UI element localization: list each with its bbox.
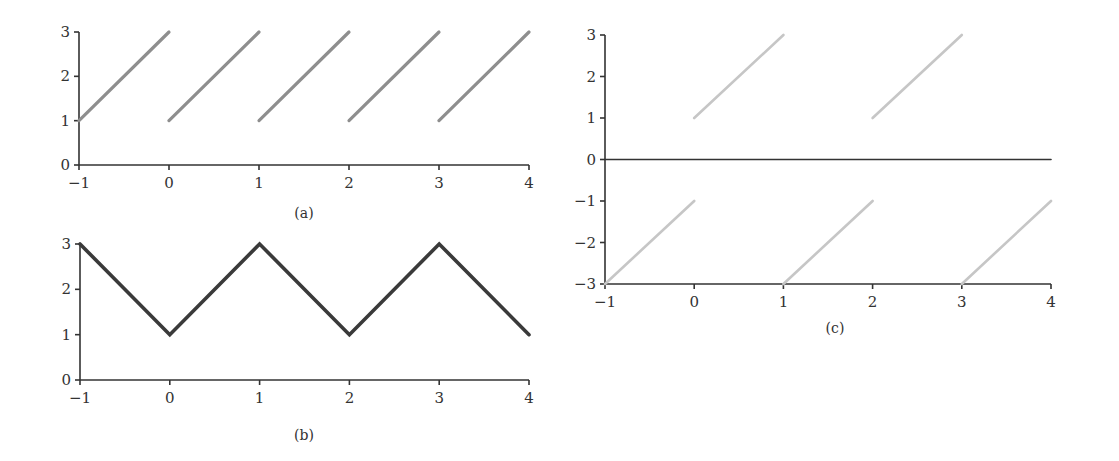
x-tick-label: 3 bbox=[434, 389, 444, 407]
x-tick-label: 2 bbox=[868, 293, 878, 311]
x-tick-label: 1 bbox=[255, 389, 265, 407]
y-tick-label: 0 bbox=[586, 151, 596, 169]
series-upper-segment-2 bbox=[873, 35, 962, 118]
y-tick-label: 3 bbox=[61, 235, 71, 253]
chart-caption: (c) bbox=[826, 320, 845, 336]
x-tick-label: 2 bbox=[345, 389, 355, 407]
series-segment-1 bbox=[79, 32, 169, 121]
y-tick-label: 2 bbox=[586, 68, 596, 86]
x-tick-label: −1 bbox=[69, 389, 91, 407]
series-segment-3 bbox=[259, 32, 349, 121]
y-tick-label: 1 bbox=[61, 326, 71, 344]
x-tick-label: 3 bbox=[957, 293, 967, 311]
x-tick-label: 4 bbox=[1046, 293, 1056, 311]
series-segment-5 bbox=[439, 32, 529, 121]
series-upper-segment-1 bbox=[694, 35, 783, 118]
x-tick-label: −1 bbox=[594, 293, 616, 311]
chart-caption: (a) bbox=[294, 205, 313, 221]
series-lower-segment-1 bbox=[605, 201, 694, 284]
series-segment-2 bbox=[169, 32, 259, 121]
y-tick-label: 0 bbox=[61, 371, 71, 389]
y-tick-label: 2 bbox=[60, 67, 70, 85]
chart-c: −3−2−10123−101234(c) bbox=[574, 26, 1056, 336]
x-tick-label: 0 bbox=[689, 293, 699, 311]
figure-canvas: 0123−101234(a) 0123−101234(b) −3−2−10123… bbox=[0, 0, 1119, 461]
y-tick-label: 0 bbox=[60, 156, 70, 174]
y-tick-label: 1 bbox=[586, 109, 596, 127]
y-tick-label: 3 bbox=[60, 23, 70, 41]
series-segment-4 bbox=[349, 32, 439, 121]
series-lower-segment-2 bbox=[783, 201, 872, 284]
chart-caption: (b) bbox=[294, 427, 314, 443]
x-tick-label: 1 bbox=[254, 174, 264, 192]
series-triangle-wave bbox=[80, 244, 529, 335]
y-tick-label: −3 bbox=[574, 275, 596, 293]
x-tick-label: 4 bbox=[524, 389, 534, 407]
y-tick-label: 3 bbox=[586, 26, 596, 44]
chart-b: 0123−101234(b) bbox=[61, 235, 533, 443]
x-tick-label: 2 bbox=[344, 174, 354, 192]
x-tick-label: 1 bbox=[779, 293, 789, 311]
y-tick-label: −1 bbox=[574, 192, 596, 210]
chart-a: 0123−101234(a) bbox=[60, 23, 533, 221]
series-lower-segment-3 bbox=[962, 201, 1051, 284]
x-tick-label: 3 bbox=[434, 174, 444, 192]
x-tick-label: 0 bbox=[164, 174, 174, 192]
y-tick-label: −2 bbox=[574, 234, 596, 252]
y-tick-label: 1 bbox=[60, 112, 70, 130]
x-tick-label: 4 bbox=[524, 174, 534, 192]
x-tick-label: −1 bbox=[68, 174, 90, 192]
x-tick-label: 0 bbox=[165, 389, 175, 407]
y-tick-label: 2 bbox=[61, 280, 71, 298]
